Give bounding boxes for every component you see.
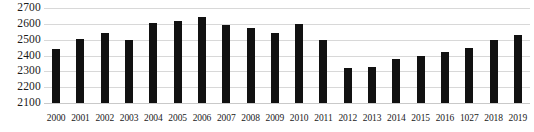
x-axis: 2000200120022003200420052006200720082009…: [44, 110, 530, 132]
bar: [441, 52, 449, 103]
y-axis-tick-label: 2200: [17, 81, 41, 93]
bar: [490, 40, 498, 103]
bar-series: [44, 0, 530, 109]
y-axis-tick-label: 2100: [17, 97, 41, 109]
bar: [295, 24, 303, 103]
y-axis-tick-label: 2300: [17, 65, 41, 77]
x-axis-tick-label: 2019: [501, 113, 534, 123]
y-axis-tick-label: 2400: [17, 50, 41, 62]
y-axis-tick-label: 2600: [17, 18, 41, 30]
bar: [52, 49, 60, 103]
bar: [247, 28, 255, 103]
bar: [392, 59, 400, 103]
plot-area: [44, 0, 530, 109]
bar: [465, 48, 473, 103]
bar-chart: 2700260025002400230022002100 20002001200…: [0, 0, 534, 132]
bar: [344, 68, 352, 103]
y-axis: 2700260025002400230022002100: [0, 0, 44, 132]
bar: [149, 23, 157, 103]
bar: [368, 67, 376, 103]
bar: [222, 25, 230, 103]
y-axis-tick-label: 2500: [17, 34, 41, 46]
bar: [198, 17, 206, 103]
bar: [125, 40, 133, 103]
bar: [76, 39, 84, 103]
bar: [319, 40, 327, 103]
y-axis-tick-label: 2700: [17, 2, 41, 14]
bar: [271, 33, 279, 103]
bar: [514, 35, 522, 103]
bar: [417, 56, 425, 104]
bar: [101, 33, 109, 103]
bar: [174, 21, 182, 103]
